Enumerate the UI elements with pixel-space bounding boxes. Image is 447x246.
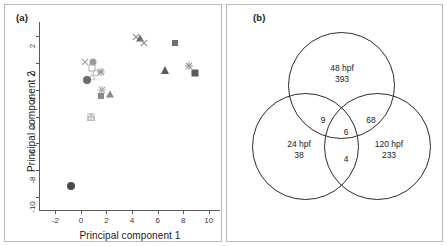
- y-tick-label: -10: [28, 197, 37, 217]
- venn-label-120hpf-text: 120 hpf: [375, 139, 403, 150]
- x-axis-title: Principal component 1: [40, 230, 220, 241]
- data-point-square: [172, 40, 178, 46]
- y-axis-title: Principal component 2: [26, 47, 37, 197]
- data-point-open-circle: [93, 70, 100, 77]
- venn-intersection-48-24: 9: [321, 115, 326, 126]
- data-point-open-square: [89, 64, 96, 71]
- venn-label-24hpf-text: 24 hpf: [287, 139, 311, 150]
- data-point-triangle: [161, 66, 169, 74]
- data-point-open-tri: [88, 66, 95, 73]
- data-point-star: [97, 68, 106, 77]
- x-tick: [158, 211, 159, 214]
- x-tick-label: 8: [181, 216, 185, 225]
- figure-container: (a) -20246810 20-2-4-6-8-10 Principal co…: [0, 0, 447, 246]
- data-point-circle: [83, 76, 91, 84]
- data-point-triangle: [136, 35, 144, 42]
- x-tick: [209, 211, 210, 214]
- venn-label-24hpf: 24 hpf 38: [287, 139, 311, 160]
- venn-label-120hpf-count: 233: [375, 150, 403, 161]
- x-axis-line: [39, 210, 220, 211]
- venn-intersection-24-120: 4: [344, 154, 349, 165]
- x-tick-label: -2: [52, 216, 59, 225]
- x-tick-label: 0: [79, 216, 83, 225]
- x-tick-label: 2: [104, 216, 108, 225]
- data-point-square: [98, 93, 104, 99]
- data-point-square: [192, 70, 199, 77]
- venn-label-48hpf: 48 hpf 393: [330, 63, 354, 84]
- data-point-triangle: [106, 91, 114, 98]
- data-point-star: [184, 61, 193, 70]
- venn-label-120hpf: 120 hpf 233: [375, 139, 403, 160]
- venn-label-24hpf-count: 38: [287, 150, 311, 161]
- x-tick-label: 4: [130, 216, 134, 225]
- x-tick: [106, 211, 107, 214]
- x-tick-label: 10: [204, 216, 213, 225]
- x-tick-label: 6: [155, 216, 159, 225]
- y-axis-line: [39, 22, 40, 211]
- data-point-star: [98, 85, 107, 94]
- data-point-circle: [67, 182, 75, 190]
- venn-intersection-48-120: 68: [366, 115, 375, 126]
- x-tick: [183, 211, 184, 214]
- panel-b-venn-diagram: 48 hpf 393 24 hpf 38 120 hpf 233 9 68 6 …: [226, 4, 443, 242]
- x-tick: [81, 211, 82, 214]
- data-point-x: [132, 33, 140, 41]
- venn-label-48hpf-count: 393: [330, 74, 354, 85]
- data-point-x: [81, 58, 89, 66]
- venn-intersection-all: 6: [344, 127, 349, 138]
- data-point-open-star: [86, 107, 95, 116]
- panel-a-scatter-plot: -20246810 20-2-4-6-8-10 Principal compon…: [4, 4, 222, 242]
- x-tick: [55, 211, 56, 214]
- venn-label-48hpf-text: 48 hpf: [330, 63, 354, 74]
- data-point-circle: [90, 58, 97, 65]
- x-tick: [132, 211, 133, 214]
- data-point-x: [140, 39, 148, 47]
